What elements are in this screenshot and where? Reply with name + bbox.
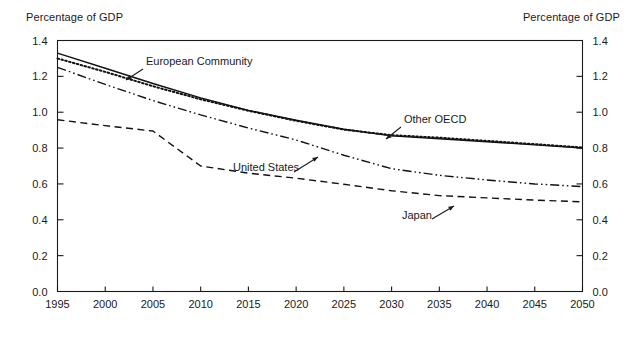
y-tick-label-left: 0.6 — [32, 178, 47, 190]
y-tick-label-right: 0.6 — [593, 178, 608, 190]
x-tick-label: 2035 — [427, 298, 451, 310]
x-tick-label: 2020 — [284, 298, 308, 310]
annotation-arrow-head — [312, 157, 318, 162]
y-tick-label-left: 0.8 — [32, 142, 47, 154]
series-lines — [58, 53, 583, 202]
y-tick-label-right: 1.4 — [593, 35, 608, 47]
x-tick-label: 1995 — [45, 298, 69, 310]
y-tick-label-right: 0.4 — [593, 214, 608, 226]
y-axis-title-right: Percentage of GDP — [523, 11, 620, 23]
y-tick-label-left: 0.0 — [32, 286, 47, 298]
y-tick-label-left: 1.2 — [32, 70, 47, 82]
y-tick-label-left: 0.2 — [32, 250, 47, 262]
y-axis-ticks-left: 0.00.20.40.60.81.01.21.4 — [32, 35, 63, 298]
y-tick-label-right: 0.0 — [593, 286, 608, 298]
y-tick-label-left: 1.4 — [32, 35, 47, 47]
annotation-label: Other OECD — [404, 113, 466, 125]
annotation-label: United States — [233, 161, 300, 173]
series-line-european-community — [58, 53, 583, 148]
x-tick-label: 2005 — [141, 298, 165, 310]
series-line-other-oecd — [58, 58, 583, 147]
y-tick-label-right: 1.0 — [593, 106, 608, 118]
x-axis-ticks: 1995200020052010201520202025203020352040… — [45, 287, 594, 310]
x-tick-label: 2040 — [475, 298, 499, 310]
annotation-label: Japan — [402, 209, 432, 221]
y-axis-title-left: Percentage of GDP — [26, 11, 123, 23]
y-tick-label-right: 1.2 — [593, 70, 608, 82]
x-tick-label: 2015 — [236, 298, 260, 310]
x-tick-label: 2010 — [188, 298, 212, 310]
line-chart-plot: 1995200020052010201520202025203020352040… — [0, 0, 640, 337]
x-tick-label: 2000 — [93, 298, 117, 310]
x-tick-label: 2025 — [332, 298, 356, 310]
y-tick-label-left: 1.0 — [32, 106, 47, 118]
y-tick-label-right: 0.2 — [593, 250, 608, 262]
chart-figure: Percentage of GDP Percentage of GDP 1995… — [0, 0, 640, 337]
series-line-united-states — [58, 67, 583, 186]
y-axis-ticks-right: 0.00.20.40.60.81.01.21.4 — [577, 35, 608, 298]
y-tick-label-left: 0.4 — [32, 214, 47, 226]
x-tick-label: 2045 — [523, 298, 547, 310]
x-tick-label: 2030 — [379, 298, 403, 310]
annotation-label: European Community — [146, 55, 253, 67]
x-tick-label: 2050 — [570, 298, 594, 310]
series-line-japan — [58, 120, 583, 202]
y-tick-label-right: 0.8 — [593, 142, 608, 154]
